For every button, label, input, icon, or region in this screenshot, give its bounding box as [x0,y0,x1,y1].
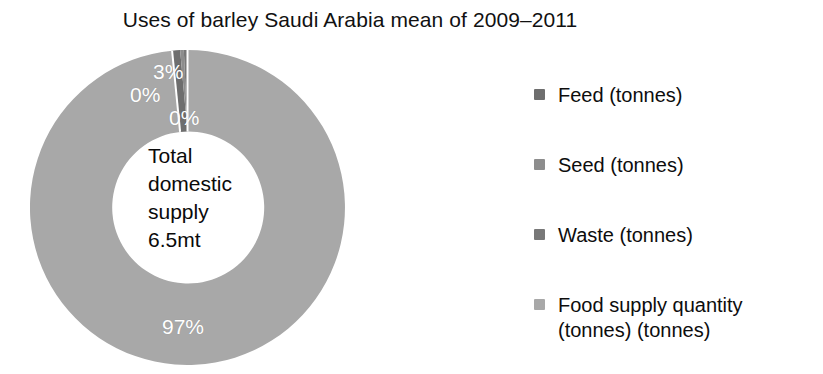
slice-label-waste: 0% [169,106,199,129]
legend-label-waste: Waste (tonnes) [558,223,693,248]
page-title: Uses of barley Saudi Arabia mean of 2009… [0,7,700,33]
legend-swatch-seed-icon [534,159,545,170]
legend-label-food-supply: Food supply quantity (tonnes) (tonnes) [558,293,808,343]
slice-label-seed: 0% [130,83,160,106]
legend-label-feed: Feed (tonnes) [558,83,683,108]
slice-label-food-supply: 97% [162,315,204,338]
slice-label-feed: 3% [153,60,183,83]
donut-chart: 3% 0% 0% 97% Total domestic supply 6.5mt [30,50,345,365]
legend-swatch-feed-icon [534,89,545,100]
legend: Feed (tonnes) Seed (tonnes) Waste (tonne… [534,83,814,363]
legend-swatch-food-supply-icon [534,299,545,310]
legend-item-waste[interactable]: Waste (tonnes) [534,223,814,293]
center-line-2: domestic [148,170,278,198]
center-line-3: supply [148,198,278,226]
legend-item-feed[interactable]: Feed (tonnes) [534,83,814,153]
chart-page: Uses of barley Saudi Arabia mean of 2009… [0,0,823,374]
legend-item-food-supply[interactable]: Food supply quantity (tonnes) (tonnes) [534,293,814,363]
legend-item-seed[interactable]: Seed (tonnes) [534,153,814,223]
legend-label-seed: Seed (tonnes) [558,153,684,178]
donut-center-label: Total domestic supply 6.5mt [148,142,278,254]
legend-swatch-waste-icon [534,229,545,240]
center-line-4: 6.5mt [148,226,278,254]
center-line-1: Total [148,142,278,170]
